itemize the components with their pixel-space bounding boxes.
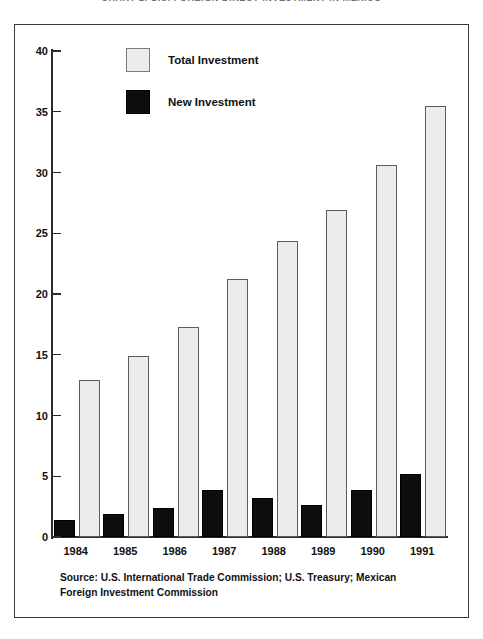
y-axis-tick-label: 10 — [4, 410, 48, 422]
bar-new-investment — [301, 505, 322, 537]
x-axis-tick-label: 1984 — [51, 545, 101, 557]
bar-new-investment — [153, 508, 174, 537]
bar-group — [351, 51, 397, 537]
y-axis-tick — [52, 415, 61, 416]
page-title: CHART 2. U.S. FOREIGN DIRECT INVESTMENT … — [0, 0, 483, 3]
legend-item-total-investment: Total Investment — [126, 48, 356, 72]
bar-new-investment — [351, 490, 372, 537]
x-axis-tick-label: 1991 — [398, 545, 448, 557]
y-axis-tick-label: 5 — [4, 470, 48, 482]
bar-new-investment — [400, 474, 421, 537]
chart-page: CHART 2. U.S. FOREIGN DIRECT INVESTMENT … — [0, 0, 483, 639]
y-axis-tick — [52, 536, 61, 537]
bar-new-investment — [54, 520, 75, 537]
bar-new-investment — [252, 498, 273, 537]
y-axis-tick — [52, 111, 61, 112]
x-axis-tick-label: 1990 — [348, 545, 398, 557]
bar-new-investment — [103, 514, 124, 537]
legend-swatch-new-investment — [126, 90, 150, 114]
y-axis-tick-label: 40 — [4, 45, 48, 57]
x-axis-tick-label: 1985 — [101, 545, 151, 557]
bar-total-investment — [376, 165, 397, 537]
y-axis-tick-label: 35 — [4, 106, 48, 118]
source-note: Source: U.S. International Trade Commiss… — [60, 571, 430, 601]
bar-total-investment — [326, 210, 347, 537]
legend-label-new-investment: New Investment — [168, 96, 256, 108]
bar-new-investment — [202, 490, 223, 537]
y-axis-tick-label: 30 — [4, 167, 48, 179]
cropped-title-sliver: CHART 2. U.S. FOREIGN DIRECT INVESTMENT … — [0, 0, 483, 7]
y-axis-labels: 0510152025303540 — [0, 0, 48, 639]
y-axis-tick-label: 0 — [4, 531, 48, 543]
y-axis-tick — [52, 293, 61, 294]
bar-total-investment — [425, 106, 446, 537]
bar-total-investment — [227, 279, 248, 537]
y-axis-tick — [52, 233, 61, 234]
legend-label-total-investment: Total Investment — [168, 54, 259, 66]
y-axis-tick-label: 25 — [4, 227, 48, 239]
x-axis-tick-label: 1987 — [200, 545, 250, 557]
chart-legend: Total Investment New Investment — [126, 48, 356, 132]
x-axis-tick-label: 1989 — [299, 545, 349, 557]
x-axis-tick-label: 1986 — [150, 545, 200, 557]
bar-total-investment — [79, 380, 100, 537]
legend-item-new-investment: New Investment — [126, 90, 356, 114]
y-axis-tick-label: 15 — [4, 349, 48, 361]
bar-total-investment — [128, 356, 149, 537]
legend-swatch-total-investment — [126, 48, 150, 72]
y-axis-tick — [52, 476, 61, 477]
x-axis-tick-label: 1988 — [249, 545, 299, 557]
bar-total-investment — [178, 327, 199, 537]
bar-total-investment — [277, 241, 298, 537]
y-axis-tick-label: 20 — [4, 288, 48, 300]
bar-group — [400, 51, 446, 537]
y-axis-tick — [52, 50, 61, 51]
y-axis-tick — [52, 354, 61, 355]
y-axis-tick — [52, 172, 61, 173]
